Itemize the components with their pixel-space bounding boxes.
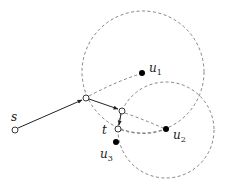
label-s: s bbox=[11, 110, 17, 124]
label-u1-sub: 1 bbox=[157, 68, 162, 77]
label-u3-main: u bbox=[100, 147, 108, 161]
dashed-edge-t-u2 bbox=[121, 130, 163, 134]
node-s bbox=[12, 127, 18, 133]
dashed-edge-b-u2 bbox=[125, 113, 163, 128]
label-u2: u2 bbox=[173, 128, 186, 144]
arrow-a-b bbox=[89, 99, 118, 109]
node-u1 bbox=[139, 70, 145, 76]
label-u1: u1 bbox=[149, 61, 162, 77]
node-t bbox=[115, 126, 121, 132]
node-u2 bbox=[163, 126, 169, 132]
label-u2-main: u bbox=[173, 128, 181, 142]
node-b bbox=[119, 108, 125, 114]
label-t: t bbox=[102, 123, 107, 137]
node-a bbox=[83, 95, 89, 101]
node-u3 bbox=[113, 139, 119, 145]
diagram-canvas: s t u1 u2 u3 bbox=[0, 0, 225, 187]
arrow-s-a bbox=[18, 100, 82, 128]
label-u1-main: u bbox=[149, 61, 157, 75]
dashed-edge-a-u1 bbox=[89, 74, 140, 96]
label-u2-sub: 2 bbox=[181, 135, 186, 144]
label-u3-sub: 3 bbox=[108, 154, 113, 163]
label-u3: u3 bbox=[100, 147, 113, 163]
